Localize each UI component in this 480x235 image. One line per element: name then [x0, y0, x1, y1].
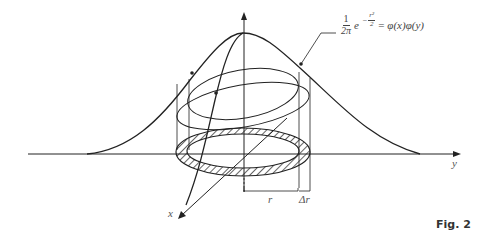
formula-leader-line	[301, 33, 336, 64]
exponent-denominator: 2	[370, 21, 374, 28]
exponent: − r² 2	[362, 12, 375, 28]
exponent-sign: −	[362, 16, 367, 25]
coefficient-denominator: 2π	[341, 26, 351, 37]
x-axis-label: x	[168, 208, 173, 219]
coefficient-numerator: 1	[343, 14, 350, 26]
annulus-ring	[170, 120, 320, 185]
formula-rhs: φ(x)φ(y)	[387, 19, 424, 31]
coefficient-fraction: 1 2π	[341, 14, 351, 36]
intersection-points	[190, 62, 303, 95]
delta-radius-label: Δr	[299, 194, 310, 205]
density-formula: 1 2π e − r² 2 = φ(x)φ(y)	[341, 14, 424, 36]
exponential-base: e	[354, 19, 359, 31]
figure-caption: Fig. 2	[436, 218, 471, 231]
y-axis-label: y	[452, 158, 457, 169]
radius-label: r	[268, 194, 272, 205]
equals-sign: =	[378, 19, 384, 31]
exponent-fraction: r² 2	[368, 12, 375, 28]
arrow-head-icon	[241, 12, 247, 20]
